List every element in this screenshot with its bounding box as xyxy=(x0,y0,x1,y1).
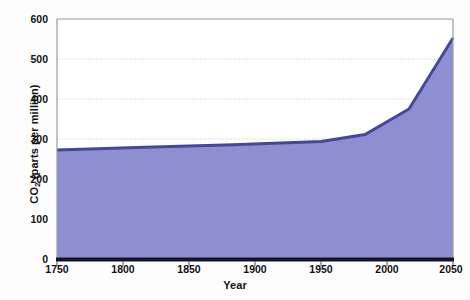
y-axis-title-main: CO xyxy=(28,187,40,204)
chart-plot-area xyxy=(0,0,470,300)
y-tick-500: 500 xyxy=(8,53,48,65)
x-tick-2000: 2000 xyxy=(375,263,398,275)
y-tick-0: 0 xyxy=(8,253,48,265)
x-axis-title: Year xyxy=(0,279,470,291)
x-tick-1900: 1900 xyxy=(243,263,266,275)
x-tick-1850: 1850 xyxy=(177,263,200,275)
y-tick-400: 400 xyxy=(8,93,48,105)
y-tick-200: 200 xyxy=(8,173,48,185)
y-tick-600: 600 xyxy=(8,13,48,25)
chart-figure: CO2 (parts per million) 600 500 400 300 … xyxy=(0,0,470,300)
x-tick-1800: 1800 xyxy=(111,263,134,275)
x-tick-2050: 2050 xyxy=(439,263,462,275)
x-tick-1750: 1750 xyxy=(45,263,68,275)
y-tick-300: 300 xyxy=(8,133,48,145)
y-tick-100: 100 xyxy=(8,213,48,225)
x-tick-1950: 1950 xyxy=(309,263,332,275)
